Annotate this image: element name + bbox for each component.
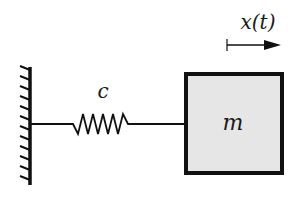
mass-label: m xyxy=(223,110,244,135)
fixed-wall xyxy=(20,66,30,185)
displacement-arrow xyxy=(227,39,281,51)
displacement-label: x(t) xyxy=(241,10,276,34)
mass-damper-diagram: c m x(t) xyxy=(0,0,298,200)
damper-label: c xyxy=(97,79,108,103)
damper-element xyxy=(31,114,184,134)
